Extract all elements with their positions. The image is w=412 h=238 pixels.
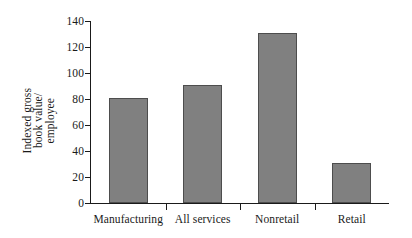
bar-chart: Indexed gross book value/ employee 02040… — [0, 0, 412, 238]
x-axis-tick-mark — [240, 204, 241, 210]
bar — [109, 98, 148, 203]
x-axis-tick-mark — [166, 204, 167, 210]
x-axis-category-label: Nonretail — [240, 212, 315, 226]
y-axis-title-line-3: employee — [45, 98, 57, 144]
y-axis-tick-mark — [85, 203, 91, 204]
y-axis-tick-label: 20 — [56, 170, 84, 184]
y-axis-tick-label: 40 — [56, 144, 84, 158]
plot-area — [91, 21, 389, 203]
bar — [332, 163, 371, 203]
y-axis-tick-label: 0 — [56, 196, 84, 210]
bar — [183, 85, 222, 203]
x-axis-tick-mark — [315, 204, 316, 210]
y-axis-tick-label: 140 — [56, 14, 84, 28]
y-axis-tick-label: 120 — [56, 40, 84, 54]
x-axis-category-label: Retail — [315, 212, 390, 226]
bar — [258, 33, 297, 203]
y-axis-tick-label: 100 — [56, 66, 84, 80]
x-axis-category-label: Manufacturing — [91, 212, 166, 226]
x-axis-category-label: All services — [166, 212, 241, 226]
y-axis-tick-label: 80 — [56, 92, 84, 106]
y-axis-tick-label: 60 — [56, 118, 84, 132]
